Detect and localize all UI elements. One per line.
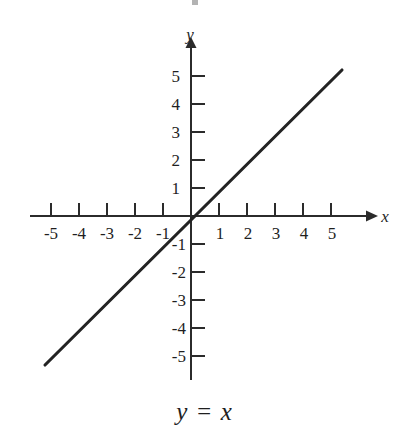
x-axis-arrow-icon	[366, 211, 378, 222]
x-axis-label: x	[380, 207, 389, 226]
y-tick-label: 5	[172, 67, 181, 86]
x-tick-labels: -5 -4 -3 -2 -1 1 2 3 4 5	[44, 224, 336, 243]
y-tick-label: 1	[172, 179, 181, 198]
y-tick-label: -3	[172, 291, 186, 310]
y-axis-label: y	[184, 25, 194, 44]
graph-figure: -5 -4 -3 -2 -1 1 2 3 4 5 5 4 3 2 1 -1 -2…	[0, 0, 409, 448]
x-tick-label: 4	[300, 224, 309, 243]
x-tick-label: -4	[72, 224, 87, 243]
x-tick-label: -2	[128, 224, 142, 243]
y-tick-label: 4	[172, 95, 181, 114]
x-tick-label: 1	[216, 224, 225, 243]
y-tick-label: 2	[172, 151, 181, 170]
coordinate-plane: -5 -4 -3 -2 -1 1 2 3 4 5 5 4 3 2 1 -1 -2…	[0, 0, 409, 448]
figure-caption: y = x	[0, 398, 409, 426]
y-tick-label: -5	[172, 347, 186, 366]
x-tick-label: 5	[328, 224, 337, 243]
function-line-y-equals-x	[45, 70, 342, 365]
y-tick-label: -4	[172, 319, 187, 338]
x-tick-label: -3	[100, 224, 114, 243]
y-tick-label: 3	[172, 123, 181, 142]
x-tick-label: -5	[44, 224, 58, 243]
y-tick-label: -2	[172, 263, 186, 282]
x-tick-label: 2	[244, 224, 253, 243]
x-tick-label: -1	[156, 224, 170, 243]
x-tick-label: 3	[272, 224, 281, 243]
